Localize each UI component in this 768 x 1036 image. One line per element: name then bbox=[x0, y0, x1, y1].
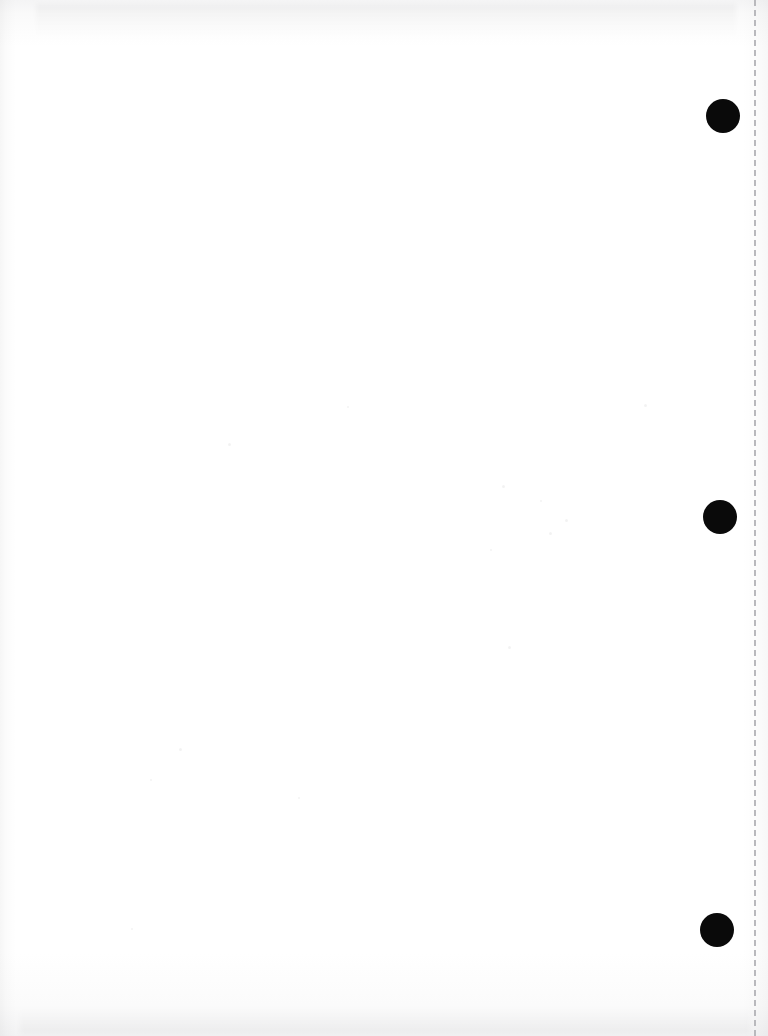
page-content-text bbox=[60, 60, 680, 940]
punch-hole-top bbox=[706, 99, 740, 133]
punch-hole-bottom bbox=[700, 913, 734, 947]
punch-hole-middle bbox=[703, 500, 737, 534]
scanned-page bbox=[0, 0, 768, 1036]
